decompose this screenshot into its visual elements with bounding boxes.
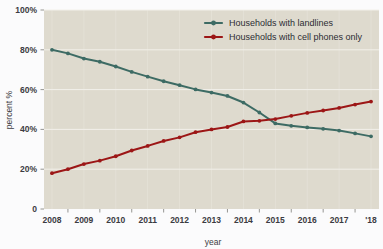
data-point-marker [98,159,102,163]
legend-swatch-marker [211,21,216,26]
data-point-marker [114,65,118,69]
y-tick-label: 100% [15,5,37,15]
data-point-marker [369,100,373,104]
x-tick-label: 2011 [138,215,157,225]
x-tick-label: 2013 [202,215,221,225]
data-point-marker [66,51,70,55]
data-point-marker [146,75,150,79]
data-point-marker [178,135,182,139]
data-point-marker [98,60,102,64]
data-point-marker [321,109,325,113]
x-tick-label: 2010 [106,215,125,225]
data-point-marker [146,144,150,148]
data-point-marker [305,126,309,130]
data-point-marker [242,101,246,105]
data-point-marker [162,139,166,143]
data-point-marker [82,162,86,166]
data-point-marker [353,103,357,107]
y-tick-label: 0 [32,204,37,214]
data-point-marker [130,70,134,74]
data-point-marker [50,171,54,175]
data-point-marker [130,149,134,153]
legend-swatch-marker [211,35,216,40]
data-point-marker [82,57,86,61]
chart-container: 100%80%60%40%20%0 2008200920102011201220… [0,0,383,249]
data-point-marker [210,127,214,131]
data-point-marker [114,154,118,158]
data-point-marker [257,119,261,123]
x-tick-label: 2016 [298,215,317,225]
data-point-marker [321,127,325,131]
legend-entry-label: Households with landlines [229,18,334,28]
x-tick-label: 2012 [170,215,189,225]
x-tick-label: 2017 [330,215,349,225]
data-point-marker [194,88,198,92]
data-point-marker [226,94,230,98]
data-point-marker [353,131,357,135]
data-point-marker [337,106,341,110]
data-point-marker [194,130,198,134]
data-point-marker [66,167,70,171]
data-point-marker [369,134,373,138]
data-point-marker [226,125,230,129]
x-tick-label: 2014 [234,215,253,225]
x-tick-label: '18 [365,215,377,225]
data-point-marker [273,117,277,121]
data-point-marker [289,114,293,118]
data-point-marker [305,111,309,115]
data-point-marker [337,129,341,133]
y-tick-label: 60% [20,85,37,95]
y-tick-label: 80% [20,45,37,55]
y-axis-title: percent % [4,90,14,129]
data-point-marker [273,122,277,126]
y-tick-label: 40% [20,124,37,134]
data-point-marker [50,48,54,52]
data-point-marker [257,111,261,115]
data-point-marker [178,83,182,87]
x-tick-label: 2015 [266,215,285,225]
data-point-marker [289,124,293,128]
x-tick-label: 2008 [43,215,62,225]
data-point-marker [210,91,214,95]
x-axis-title: year [205,237,222,247]
y-tick-label: 20% [20,164,37,174]
x-tick-label: 2009 [74,215,93,225]
legend-entry-label: Households with cell phones only [229,32,363,42]
line-chart: 100%80%60%40%20%0 2008200920102011201220… [0,0,383,249]
data-point-marker [162,79,166,83]
data-point-marker [242,120,246,124]
